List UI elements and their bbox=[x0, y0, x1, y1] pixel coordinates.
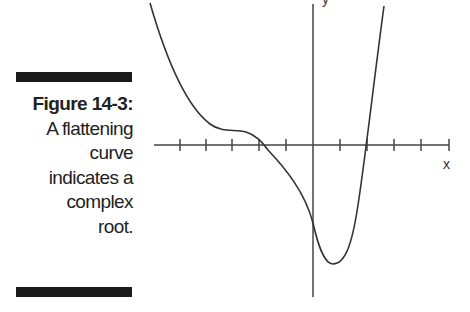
polynomial-curve bbox=[150, 3, 384, 264]
x-axis-label: x bbox=[443, 156, 450, 172]
y-axis-label: y bbox=[322, 0, 329, 7]
function-graph: x y bbox=[0, 0, 470, 312]
